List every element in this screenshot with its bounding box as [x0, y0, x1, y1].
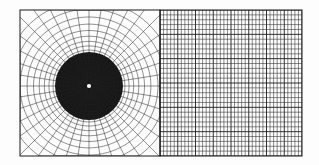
mesh-canvas: [0, 0, 319, 165]
mesh-figure: [0, 0, 319, 165]
mesh-center-singularity: [87, 84, 91, 88]
cartesian-mesh-panel: [160, 10, 302, 156]
